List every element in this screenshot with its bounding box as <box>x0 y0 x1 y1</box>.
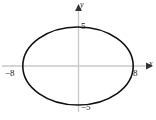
y-axis-name-label: y <box>80 1 84 9</box>
x-axis-tick-label-negative-8: −8 <box>5 69 15 78</box>
ellipse-graph-figure: 5 −5 −8 8 y x <box>0 0 156 120</box>
y-axis-tick-label-5: 5 <box>81 22 86 31</box>
x-axis-tick-label-8: 8 <box>133 69 138 78</box>
x-axis-name-label: x <box>149 60 153 68</box>
y-axis-tick-label-negative-5: −5 <box>81 103 91 112</box>
plot-canvas <box>0 0 156 120</box>
